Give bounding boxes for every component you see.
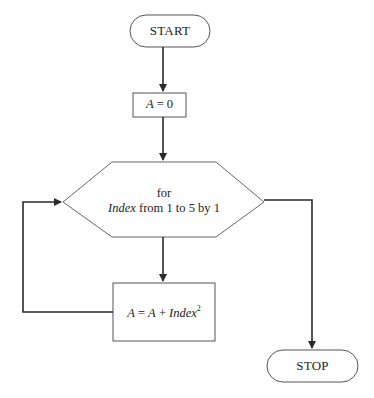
start-label: START bbox=[130, 23, 210, 39]
body-lhs: A bbox=[127, 306, 135, 320]
init-op: = bbox=[154, 97, 167, 111]
loop-range: from 1 to 5 by 1 bbox=[136, 201, 220, 215]
flowchart-canvas: START A = 0 for Index from 1 to 5 by 1 A… bbox=[0, 0, 374, 398]
init-label: A = 0 bbox=[133, 97, 186, 112]
loop-label-line1: for bbox=[112, 186, 216, 201]
body-label: A = A + Index2 bbox=[113, 304, 215, 321]
body-exponent: 2 bbox=[197, 304, 201, 313]
body-eq: = bbox=[135, 306, 148, 320]
loop-label-line2: Index from 1 to 5 by 1 bbox=[90, 201, 238, 216]
init-var: A bbox=[146, 97, 154, 111]
init-value: 0 bbox=[167, 97, 173, 111]
edge-loop-to-stop bbox=[264, 200, 312, 348]
loop-var: Index bbox=[108, 201, 136, 215]
body-plus: + bbox=[156, 306, 169, 320]
stop-label: STOP bbox=[267, 358, 358, 374]
body-rhs-index: Index bbox=[169, 306, 197, 320]
body-rhs-a: A bbox=[148, 306, 156, 320]
